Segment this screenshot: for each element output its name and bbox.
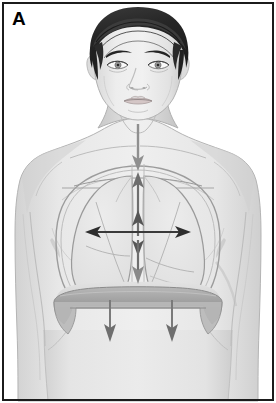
- panel-label: A: [12, 8, 26, 30]
- anatomical-illustration: [0, 0, 276, 403]
- head: [87, 7, 189, 120]
- figure-panel: A: [0, 0, 276, 403]
